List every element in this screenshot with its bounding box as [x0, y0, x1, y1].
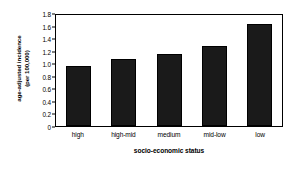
y-axis-tick-label: 1.2 — [42, 48, 51, 55]
bar-medium[interactable] — [157, 54, 182, 126]
y-axis-tick-label: 1.6 — [42, 23, 51, 30]
x-axis-tick-label: mid-low — [192, 131, 238, 143]
bar-high-mid[interactable] — [111, 59, 136, 126]
y-axis-tick-label: 0.4 — [42, 98, 51, 105]
bar-slot — [56, 15, 101, 126]
x-axis-title: socio-economic status — [55, 147, 283, 154]
bars-layer — [56, 15, 282, 126]
bar-slot — [101, 15, 146, 126]
y-axis-tick-labels: 1.81.61.41.21.00.80.60.40.20 — [31, 14, 51, 127]
y-axis-tick-label: 0.2 — [42, 111, 51, 118]
y-axis-tick-label: 0 — [48, 124, 51, 131]
x-axis-tick-label: medium — [146, 131, 192, 143]
bar-low[interactable] — [247, 24, 272, 126]
x-axis-tick-labels: highhigh-midmediummid-lowlow — [55, 131, 283, 143]
bar-mid-low[interactable] — [202, 46, 227, 126]
plot-area — [55, 14, 283, 127]
y-axis-tick-label: 1.8 — [42, 11, 51, 18]
bar-slot — [192, 15, 237, 126]
y-axis-tick-label: 0.6 — [42, 86, 51, 93]
bar-chart-figure: age-adjusted incidence (per 100,000) 1.8… — [0, 0, 292, 183]
y-axis-title-line2: (per 100,000) — [22, 36, 30, 102]
bar-slot — [146, 15, 191, 126]
y-axis-tick-label: 1.4 — [42, 36, 51, 43]
y-axis-tick-label: 1.0 — [42, 61, 51, 68]
bar-high[interactable] — [66, 66, 91, 126]
y-axis-title-line1: age-adjusted incidence — [14, 36, 22, 102]
bar-slot — [237, 15, 282, 126]
x-axis-tick-label: high — [55, 131, 101, 143]
x-axis-tick-label: high-mid — [101, 131, 147, 143]
y-axis-tick-label: 0.8 — [42, 73, 51, 80]
x-axis-tick-label: low — [237, 131, 283, 143]
